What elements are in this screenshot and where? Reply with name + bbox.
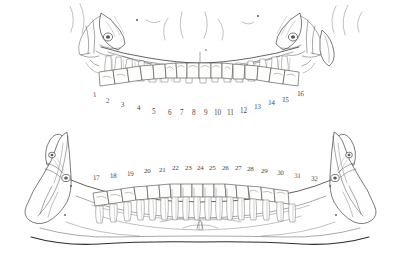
- tooth-number-21: 21: [159, 167, 166, 174]
- tooth-number-10: 10: [214, 110, 221, 117]
- tooth-number-27: 27: [235, 165, 242, 172]
- maxilla-drawing: [70, 4, 362, 86]
- tooth-number-11: 11: [227, 110, 234, 117]
- tooth-number-12: 12: [240, 108, 247, 115]
- tooth-number-28: 28: [247, 166, 254, 173]
- tooth-number-5: 5: [152, 109, 155, 116]
- tooth-number-25: 25: [209, 165, 216, 172]
- tooth-number-23: 23: [185, 165, 192, 172]
- anatomical-line-drawing: [0, 0, 401, 263]
- tooth-number-29: 29: [261, 168, 268, 175]
- tooth-number-26: 26: [222, 165, 229, 172]
- tooth-number-9: 9: [204, 110, 207, 117]
- tooth-number-24: 24: [197, 165, 204, 172]
- dental-arch-figure: 1 2 3 4 5 6 7 8 9 10 11 12 13 14 15 16 1…: [0, 0, 401, 263]
- tooth-number-7: 7: [180, 110, 183, 117]
- left-ramus: [25, 132, 72, 224]
- tooth-number-19: 19: [127, 171, 134, 178]
- tooth-number-22: 22: [172, 165, 179, 172]
- mandibular-crowns: [93, 184, 289, 206]
- right-ramus: [329, 132, 376, 224]
- tooth-number-4: 4: [137, 105, 141, 112]
- tooth-number-14: 14: [268, 100, 275, 107]
- tooth-number-17: 17: [93, 175, 100, 182]
- tooth-number-2: 2: [106, 98, 110, 105]
- tooth-number-3: 3: [121, 102, 125, 109]
- tooth-number-15: 15: [282, 97, 289, 105]
- tooth-number-31: 31: [294, 173, 301, 180]
- tooth-number-8: 8: [192, 110, 195, 117]
- mandible-drawing: [25, 132, 376, 244]
- tooth-number-6: 6: [168, 110, 171, 117]
- tooth-number-13: 13: [254, 104, 261, 111]
- tooth-number-1: 1: [93, 92, 97, 99]
- tooth-number-16: 16: [297, 91, 304, 99]
- tooth-number-18: 18: [110, 173, 117, 180]
- tooth-number-30: 30: [277, 170, 284, 177]
- tooth-number-20: 20: [144, 168, 151, 175]
- tooth-number-32: 32: [311, 176, 318, 183]
